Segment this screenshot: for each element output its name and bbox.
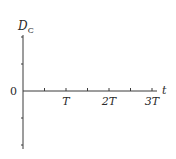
x-tick-label: 2T [101,95,118,108]
y-axis-label: DC [17,19,34,35]
x-axis-label: t [162,84,167,97]
x-tick-label: T [62,95,71,108]
chart: T2T3T DC 0 t [0,0,176,159]
origin-label: 0 [10,85,17,98]
x-tick-label: 3T [145,95,161,108]
